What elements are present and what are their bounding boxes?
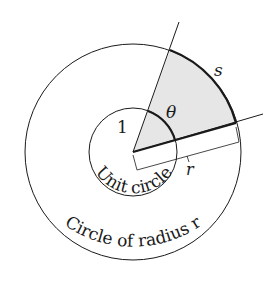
label-r: r (186, 160, 195, 179)
label-one: 1 (117, 117, 128, 137)
label-theta: θ (166, 102, 176, 122)
label-s: s (214, 60, 223, 80)
label-unit-circle: Unit circle (92, 162, 176, 197)
label-outer-circle: Circle of radius r (62, 211, 205, 251)
diagram-canvas: 1 θ s r Unit circle Circle of radius r (0, 0, 275, 298)
